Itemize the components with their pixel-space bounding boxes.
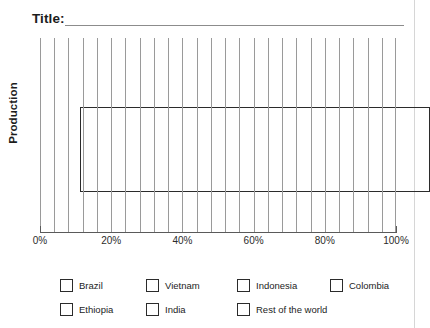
x-tick-label: 40% [172,235,192,246]
gridline [311,38,312,232]
legend-item-label: Rest of the world [256,304,327,315]
y-axis-label: Production [7,73,25,153]
gridline [182,38,183,232]
gridline [339,38,340,232]
x-axis-cap-left [40,226,41,233]
x-tick-label: 20% [101,235,121,246]
legend-item[interactable]: Rest of the world [237,300,327,318]
legend-item[interactable]: India [146,300,186,318]
legend-swatch-checkbox[interactable] [330,279,343,292]
chart-region: Production 0%20%40%60%80%100% [0,26,414,256]
legend-item-label: Colombia [349,280,389,291]
gridline [197,38,198,232]
legend-item-label: Ethiopia [79,304,113,315]
legend-swatch-checkbox[interactable] [146,279,159,292]
plot-area [40,38,396,232]
legend-swatch-checkbox[interactable] [237,303,250,316]
gridline [268,38,269,232]
legend-item[interactable]: Colombia [330,276,389,294]
gridline [154,38,155,232]
legend-item[interactable]: Ethiopia [60,300,113,318]
gridline [125,38,126,232]
gridline [111,38,112,232]
legend: BrazilVietnamIndonesiaColombiaEthiopiaIn… [0,270,414,326]
legend-item-label: Vietnam [165,280,200,291]
title-label: Title: [32,11,65,26]
gridline [54,38,55,232]
gridline [382,38,383,232]
gridline [395,38,396,232]
gridline [97,38,98,232]
stacked-bar-outline[interactable] [80,107,430,192]
legend-item[interactable]: Vietnam [146,276,200,294]
legend-item[interactable]: Indonesia [237,276,297,294]
gridline [254,38,255,232]
x-axis-line [40,232,396,233]
x-tick-label: 0% [33,235,47,246]
legend-item-label: Brazil [79,280,103,291]
gridline [353,38,354,232]
x-axis-tick-labels: 0%20%40%60%80%100% [0,235,414,251]
title-row: Title: [32,4,404,26]
gridline [168,38,169,232]
gridline [83,38,84,232]
title-blank-line[interactable] [65,10,404,26]
x-tick-label: 100% [383,235,409,246]
gridline [40,38,41,232]
legend-swatch-checkbox[interactable] [146,303,159,316]
legend-swatch-checkbox[interactable] [237,279,250,292]
x-axis-cap-right [396,226,397,233]
gridline [140,38,141,232]
gridline [211,38,212,232]
gridline [368,38,369,232]
legend-swatch-checkbox[interactable] [60,279,73,292]
gridline [239,38,240,232]
gridline [296,38,297,232]
gridline [325,38,326,232]
legend-item[interactable]: Brazil [60,276,103,294]
gridline [68,38,69,232]
gridline [282,38,283,232]
x-tick-label: 80% [315,235,335,246]
legend-item-label: India [165,304,186,315]
legend-swatch-checkbox[interactable] [60,303,73,316]
legend-item-label: Indonesia [256,280,297,291]
gridline [225,38,226,232]
x-tick-label: 60% [244,235,264,246]
